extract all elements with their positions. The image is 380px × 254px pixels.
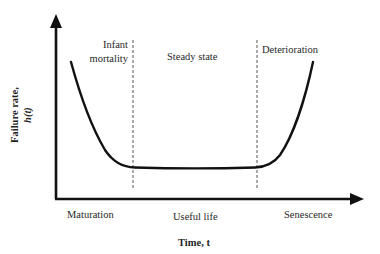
x-axis-arrowhead-icon xyxy=(350,193,364,205)
y-axis-label-line1: Failure rate, xyxy=(8,87,21,143)
failure-rate-curve xyxy=(71,62,313,168)
y-axis-arrowhead-icon xyxy=(50,14,62,28)
x-axis-label-text: Time, t xyxy=(178,237,210,248)
label-steady-state: Steady state xyxy=(167,51,217,63)
y-axis-label: Failure rate, h(t) xyxy=(8,87,34,143)
x-axis-label: Time, t xyxy=(178,237,210,249)
label-infant: Infant xyxy=(103,39,128,51)
label-mortality: mortality xyxy=(90,53,129,65)
label-useful-life: Useful life xyxy=(173,211,218,223)
label-senescence: Senescence xyxy=(284,209,332,221)
bathtub-diagram: Failure rate, h(t) Infant mortality Stea… xyxy=(0,0,380,254)
label-deterioration: Deterioration xyxy=(262,44,318,56)
y-axis-label-line2: h(t) xyxy=(21,87,34,143)
label-maturation: Maturation xyxy=(67,209,114,221)
